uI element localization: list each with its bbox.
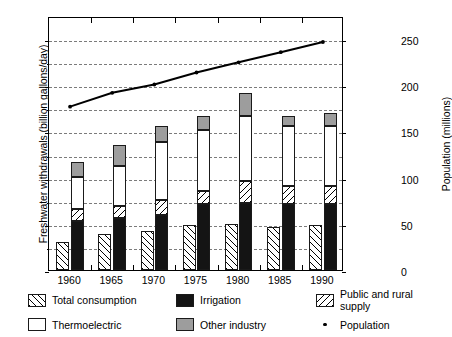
y-axis-right-title: Population (millions) — [440, 9, 452, 279]
population-marker-1985 — [279, 50, 283, 54]
x-axis-label-1970: 1970 — [130, 274, 176, 286]
legend-label: Irrigation — [200, 294, 241, 306]
x-axis-label-1975: 1975 — [173, 274, 219, 286]
plot-area: 0100200300400500 050100150200250 — [48, 17, 343, 271]
legend-label: Total consumption — [52, 294, 137, 306]
legend-item-thermoelectric: Thermoelectric — [28, 318, 176, 331]
legend-swatch-other-industry — [176, 318, 194, 331]
legend-label: Other industry — [200, 319, 266, 331]
legend-swatch-thermoelectric — [28, 318, 46, 331]
chart-legend: Total consumptionIrrigationPublic and ru… — [28, 288, 423, 331]
population-dot-icon — [316, 318, 334, 331]
legend-swatch-public-and-rural-supply — [316, 294, 334, 307]
legend-item-irrigation: Irrigation — [176, 288, 316, 312]
y-tick-label-right: 0 — [401, 266, 441, 278]
legend-item-other-industry: Other industry — [176, 318, 316, 331]
population-marker-1990 — [321, 40, 325, 44]
legend-label: Population — [340, 319, 390, 331]
population-marker-1960 — [68, 105, 72, 109]
y-tick-label-right: 250 — [401, 35, 441, 47]
y-tick-left — [45, 272, 49, 273]
x-axis-label-1980: 1980 — [215, 274, 261, 286]
y-tick-label-right: 200 — [401, 81, 441, 93]
x-axis-label-1965: 1965 — [88, 274, 134, 286]
legend-swatch-irrigation — [176, 294, 194, 307]
legend-swatch-total-consumption — [28, 294, 46, 307]
y-tick-right — [342, 272, 346, 273]
population-marker-1980 — [237, 60, 241, 64]
population-marker-1975 — [195, 71, 199, 75]
legend-item-total-consumption: Total consumption — [28, 288, 176, 312]
y-tick-label-right: 100 — [401, 174, 441, 186]
population-line-series — [49, 18, 344, 272]
x-axis-label-1990: 1990 — [299, 274, 345, 286]
population-marker-1965 — [110, 91, 114, 95]
x-axis-label-1960: 1960 — [46, 274, 92, 286]
x-axis-label-1985: 1985 — [257, 274, 303, 286]
legend-label: Thermoelectric — [52, 319, 121, 331]
legend-item-public-and-rural-supply: Public and rural supply — [316, 288, 423, 312]
legend-label: Public and rural supply — [340, 288, 423, 312]
legend-item-population: Population — [316, 318, 423, 331]
y-tick-label-right: 150 — [401, 127, 441, 139]
population-marker-1970 — [152, 83, 156, 87]
y-tick-label-right: 50 — [401, 220, 441, 232]
